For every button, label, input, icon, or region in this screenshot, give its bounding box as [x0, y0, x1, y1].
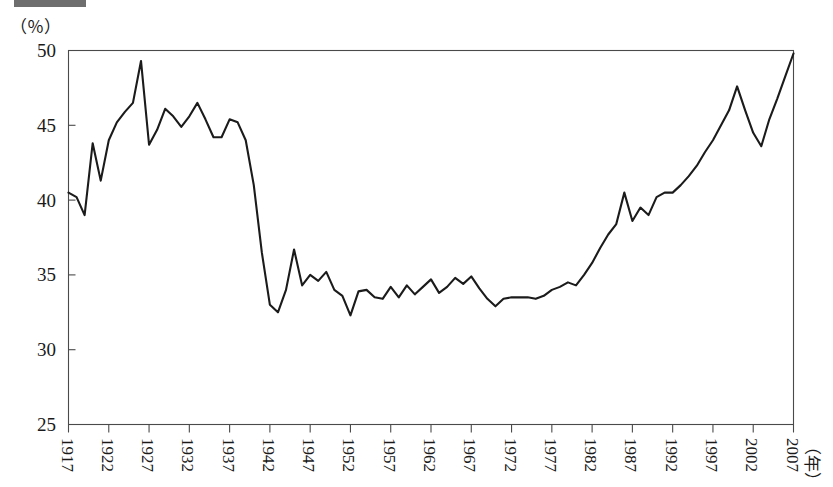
plot-frame: [69, 51, 794, 425]
y-tick-label: 35: [22, 265, 56, 284]
x-tick-label: 1952: [340, 438, 357, 472]
x-tick-label: 1997: [703, 438, 720, 472]
y-tick-label: 50: [22, 41, 56, 60]
x-tick-label: 1962: [421, 438, 438, 472]
x-axis-unit-label: （年）: [803, 438, 820, 487]
x-tick-label: 2007: [784, 438, 801, 472]
y-axis-unit-label: （％）: [10, 19, 61, 36]
x-tick-label: 1992: [663, 438, 680, 472]
x-tick-label: 1987: [622, 438, 639, 472]
data-line-share: [69, 53, 794, 315]
x-tick-label: 1942: [260, 438, 277, 472]
x-tick-label: 1937: [220, 438, 237, 472]
x-tick-label: 1977: [542, 438, 559, 472]
y-tick-label: 40: [22, 191, 56, 210]
redacted-title-bar: [14, 0, 86, 7]
x-tick-label: 1917: [59, 438, 76, 472]
plot-area: [0, 0, 833, 487]
y-tick-label: 45: [22, 116, 56, 135]
chart-figure: （％） 253035404550 19171922192719321937194…: [0, 0, 833, 487]
y-tick-label: 30: [22, 340, 56, 359]
x-tick-label: 2002: [743, 438, 760, 472]
x-tick-label: 1927: [139, 438, 156, 472]
x-tick-label: 1967: [461, 438, 478, 472]
x-tick-label: 1947: [300, 438, 317, 472]
y-tick-label: 25: [22, 415, 56, 434]
x-tick-label: 1972: [502, 438, 519, 472]
y-axis-ticks: [69, 125, 76, 349]
x-tick-label: 1932: [179, 438, 196, 472]
x-tick-label: 1982: [582, 438, 599, 472]
x-tick-label: 1922: [99, 438, 116, 472]
x-axis-ticks: [69, 425, 794, 433]
x-tick-label: 1957: [381, 438, 398, 472]
